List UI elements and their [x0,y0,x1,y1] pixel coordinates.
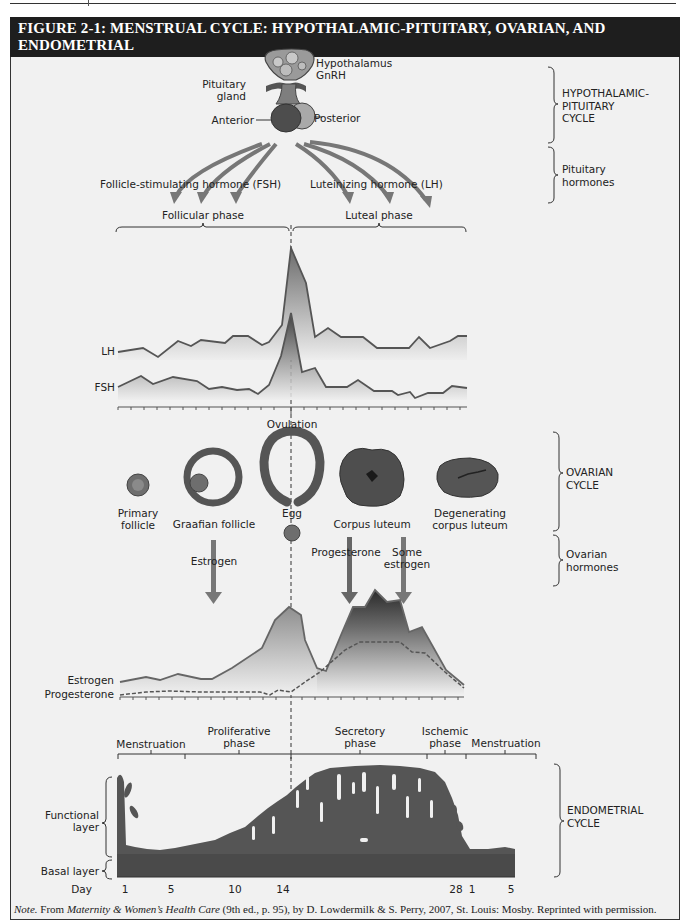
proliferative-label-2: phase [223,737,255,749]
posterior-label: Posterior [314,112,360,124]
ischemic-label-2: phase [429,737,461,749]
primary-follicle-label-1: Primary [118,507,159,519]
fsh-hormone-label: Follicle-stimulating hormone (FSH) [100,178,281,190]
arrowheads [170,192,432,208]
degenerating-corpus-luteum-label-2: corpus luteum [432,519,508,531]
gonadotropin-chart [118,248,467,414]
ischemic-label-1: Ischemic [422,725,468,737]
pituitary-gland-illustration [256,49,322,132]
some-estrogen-label-2: estrogen [384,558,430,570]
day-tick-next-5: 5 [508,883,515,895]
egg-label: Egg [282,507,302,519]
day-tick-14: 14 [276,883,289,895]
day-tick-5: 5 [168,883,175,895]
proliferative-label-1: Proliferative [207,725,270,737]
hypothalamus-label: Hypothalamus [316,57,392,69]
layer-braces [102,777,112,879]
corpus-luteum-label: Corpus luteum [333,518,410,530]
lh-series-label: LH [101,345,115,357]
luteal-phase-label: Luteal phase [345,209,412,221]
menstruation-label-2: Menstruation [471,737,540,749]
lh-hormone-label: Luteinizing hormone (LH) [310,178,443,190]
day-tick-28: 28 [449,883,462,895]
ovarian-cycle-label: OVARIAN CYCLE [566,466,613,491]
pituitary-gland-label-1: Pituitary [202,78,246,90]
hp-cycle-label: HYPOTHALAMIC- PITUITARY CYCLE [562,87,649,125]
citation-note: Note. From Maternity & Women’s Health Ca… [14,903,657,915]
day-tick-10: 10 [228,883,241,895]
gnrh-label: GnRH [316,69,346,81]
ovarian-hormone-chart [120,590,464,700]
pituitary-hormones-label: Pituitary hormones [562,163,614,188]
ovarian-hormones-label: Ovarian hormones [566,548,618,573]
day-tick-next-1: 1 [469,883,476,895]
menstruation-label-1: Menstruation [116,738,185,750]
ovarian-hormone-arrows [205,537,412,604]
day-tick-1: 1 [122,883,129,895]
anterior-label: Anterior [212,114,254,126]
day-axis-label: Day [71,883,92,895]
progesterone-arrow-label: Progesterone [311,546,380,558]
basal-layer-label: Basal layer [41,865,99,877]
ovulation-label: Ovulation [267,418,318,430]
estrogen-arrow-label: Estrogen [191,555,238,567]
pituitary-gland-label-2: gland [217,90,246,102]
secretory-label-2: phase [344,737,376,749]
graafian-follicle-label: Graafian follicle [173,518,255,530]
functional-layer-label-1: Functional [45,809,99,821]
diagram-graphics [0,0,690,923]
secretory-label-1: Secretory [335,725,386,737]
primary-follicle-label-2: follicle [121,519,155,531]
some-estrogen-label-1: Some [392,546,422,558]
functional-layer-label-2: layer [73,821,99,833]
pituitary-hormone-arrows [176,142,426,200]
progesterone-series-label: Progesterone [45,688,114,700]
endometrial-phase-brackets [118,750,536,759]
degenerating-corpus-luteum-label-1: Degenerating [434,507,506,519]
fsh-series-label: FSH [95,381,115,393]
endometrial-cycle-label: ENDOMETRIAL CYCLE [567,804,643,829]
estrogen-series-label: Estrogen [67,674,114,686]
side-braces [548,67,564,877]
endometrium-illustration [117,765,515,877]
follicular-phase-label: Follicular phase [162,209,244,221]
